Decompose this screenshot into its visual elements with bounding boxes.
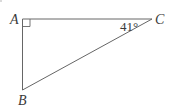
corner-mark [0, 0, 1, 1]
vertex-label-c: C [155, 13, 164, 27]
right-angle-marker [23, 19, 31, 27]
vertex-label-a: A [10, 13, 19, 27]
vertex-label-b: B [18, 94, 27, 108]
angle-label-c: 41° [120, 20, 138, 33]
